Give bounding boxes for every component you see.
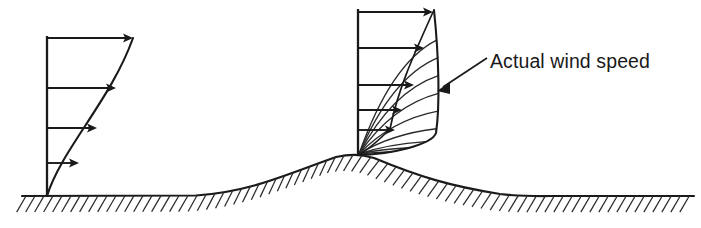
actual-wind-speed-annotation: Actual wind speed: [437, 50, 650, 94]
ground-hatch-tick: [436, 183, 447, 199]
ground-hatch-tick: [554, 196, 563, 212]
ground-hatch-tick: [490, 194, 500, 210]
ground-hatch-tick: [53, 196, 62, 212]
ground-hatch-tick: [581, 196, 590, 212]
ground-hatch-tick: [653, 196, 662, 212]
ground-hatch-tick: [563, 196, 572, 212]
flat-profile-arrow: [47, 123, 97, 132]
reference-speed-curve: [358, 10, 438, 155]
ground-hatch-tick: [62, 196, 71, 212]
ground-hatch-tick: [216, 192, 224, 208]
ground-hatch-tick: [197, 195, 206, 211]
flat-profile-arrows: [47, 33, 133, 167]
ground-hatch-tick: [71, 196, 80, 212]
ground-hatch-tick: [116, 196, 125, 212]
ground-hatch-tick: [98, 196, 107, 212]
ground-hatch-tick: [125, 196, 134, 212]
ground-hatch-tick: [44, 196, 53, 212]
ground-hatch-tick: [680, 196, 689, 212]
ground-hatch-tick: [608, 196, 617, 212]
hill-profile-arrow: [358, 125, 395, 134]
ground-hatch-tick: [481, 193, 491, 209]
ground-hatch-tick: [644, 196, 653, 212]
diagram-canvas: Actual wind speed: [0, 0, 701, 228]
ground-hatch-tick: [134, 196, 143, 212]
ground-surface: [17, 155, 694, 212]
flat-terrain-profile: [47, 33, 133, 197]
ground-hatch-tick: [671, 196, 680, 212]
ground-hatch-tick: [590, 196, 599, 212]
ground-hatch-tick: [393, 170, 405, 185]
ground-hatch-tick: [518, 196, 528, 212]
ground-hatch-tick: [662, 196, 671, 212]
flat-profile-arrow: [47, 83, 116, 92]
hill-profile-arrow: [358, 80, 414, 89]
ground-hatch-tick: [367, 160, 379, 175]
ground-hatch-tick: [188, 195, 197, 211]
ground-hatch-tick: [509, 196, 519, 212]
ground-hatch-tick: [80, 196, 89, 212]
ground-hatch-tick: [152, 196, 161, 212]
ground-hatch-tick: [617, 196, 626, 212]
ground-hatch-tick: [161, 196, 170, 212]
ground-hatch-tick: [401, 173, 413, 188]
actual-wind-speed-label: Actual wind speed: [490, 50, 650, 72]
ground-hatch-tick: [499, 195, 509, 211]
ground-hatch-tick: [89, 196, 98, 212]
ground-hatch-tick: [428, 181, 439, 197]
ground-hatch-tick: [626, 196, 635, 212]
ground-hatch-tick: [472, 191, 483, 207]
ground-hatch-tick: [536, 196, 545, 212]
ground-hatch-tick: [206, 194, 214, 210]
hill-profile-arrow: [358, 43, 424, 52]
ground-hatch-tick: [17, 196, 26, 212]
hill-profile-arrow: [358, 7, 433, 16]
ground-hatch-tick: [635, 196, 644, 212]
ground-hatch-tick: [572, 196, 581, 212]
ground-hatch-tick: [35, 196, 44, 212]
ground-hatch-tick: [463, 189, 474, 205]
ground-hatch-tick: [26, 196, 35, 212]
ground-hatch-tick: [419, 179, 430, 195]
ground-hatch-tick: [384, 167, 396, 182]
ground-hatch-tick: [179, 196, 188, 212]
hill-crest-profile: [358, 7, 438, 156]
flat-profile-curve: [47, 38, 133, 196]
ground-hatch-tick: [376, 164, 388, 179]
ground-hatching: [17, 155, 690, 212]
ground-hatch-tick: [352, 155, 362, 171]
flat-profile-arrow: [47, 33, 133, 42]
ground-hatch-tick: [545, 196, 554, 212]
ground-hatch-tick: [454, 188, 465, 204]
ground-hatch-tick: [170, 196, 179, 212]
speedup-hatch-line: [359, 58, 438, 154]
ground-hatch-tick: [410, 176, 421, 192]
ground-hatch-tick: [225, 191, 233, 207]
wind-profile-diagram: Actual wind speed: [0, 0, 701, 228]
ground-hatch-tick: [143, 196, 152, 212]
ground-hatch-tick: [344, 155, 353, 171]
ground-hatch-tick: [360, 157, 371, 173]
ground-hatch-tick: [107, 196, 116, 212]
ground-hatch-tick: [599, 196, 608, 212]
ground-hatch-tick: [335, 156, 344, 172]
ground-hatch-tick: [445, 186, 456, 202]
ground-hatch-tick: [527, 196, 536, 212]
